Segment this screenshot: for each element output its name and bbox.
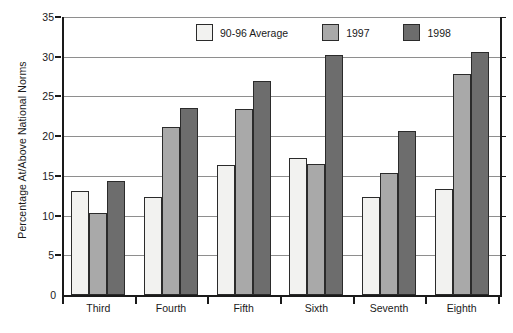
bar-seventh-0: [362, 197, 380, 295]
y-tick-mark-10: [55, 215, 61, 217]
x-tick-mark-3: [280, 297, 282, 304]
y-tick-label-20: 20: [28, 131, 54, 142]
y-tick-mark-right-5: [500, 255, 506, 256]
bar-sixth-0: [289, 158, 307, 295]
bar-eighth-0: [435, 189, 453, 295]
y-tick-label-0: 0: [36, 290, 56, 301]
legend-item-0: 90-96 Average: [196, 24, 288, 41]
bar-chart: Percentage At/Above National Norms 0 510…: [0, 0, 513, 333]
y-tick-mark-right-15: [500, 176, 506, 177]
bar-fifth-0: [217, 165, 235, 295]
y-tick-mark-5: [55, 254, 61, 256]
legend-label-0: 90-96 Average: [220, 27, 288, 39]
x-tick-mark-5: [425, 297, 427, 304]
bar-fourth-0: [144, 197, 162, 295]
x-axis-label-third: Third: [62, 303, 135, 314]
x-axis-label-eighth: Eighth: [425, 303, 498, 314]
x-tick-mark-2: [207, 297, 209, 304]
y-tick-label-5: 5: [28, 250, 54, 261]
y-tick-mark-20: [55, 135, 61, 137]
bar-group-seventh: [353, 17, 426, 295]
bar-seventh-1: [380, 173, 398, 295]
bar-third-2: [107, 181, 125, 295]
x-axis-label-fourth: Fourth: [135, 303, 208, 314]
bar-eighth-2: [471, 52, 489, 295]
bar-seventh-2: [398, 131, 416, 295]
legend-swatch-icon-0: [196, 24, 213, 41]
legend-swatch-icon-1: [322, 24, 339, 41]
bars-layer: [62, 17, 498, 295]
y-tick-mark-right-25: [500, 96, 506, 97]
legend-item-1: 1997: [322, 24, 369, 41]
x-axis-label-seventh: Seventh: [353, 303, 426, 314]
y-tick-mark-15: [55, 175, 61, 177]
bar-third-0: [71, 191, 89, 295]
bar-fourth-2: [180, 108, 198, 295]
bar-sixth-1: [307, 164, 325, 295]
x-axis-label-fifth: Fifth: [207, 303, 280, 314]
y-tick-label-25: 25: [28, 91, 54, 102]
y-tick-mark-35: [55, 16, 61, 18]
x-tick-mark-0: [62, 297, 64, 304]
x-tick-mark-1: [135, 297, 137, 304]
legend-swatch-icon-2: [403, 24, 420, 41]
y-tick-mark-right-10: [500, 216, 506, 217]
bar-group-eighth: [425, 17, 498, 295]
bar-group-fourth: [135, 17, 208, 295]
y-tick-label-35: 35: [28, 12, 54, 23]
x-tick-mark-4: [353, 297, 355, 304]
y-tick-mark-30: [55, 56, 61, 58]
y-tick-mark-right-35: [500, 17, 506, 18]
bar-eighth-1: [453, 74, 471, 295]
legend-label-1: 1997: [346, 27, 369, 39]
bar-third-1: [89, 213, 107, 295]
bar-fifth-1: [235, 109, 253, 295]
y-tick-mark-right-30: [500, 57, 506, 58]
bar-fourth-1: [162, 127, 180, 295]
y-tick-mark-25: [55, 95, 61, 97]
bar-group-sixth: [280, 17, 353, 295]
y-tick-label-10: 10: [28, 211, 54, 222]
x-axis-label-sixth: Sixth: [280, 303, 353, 314]
y-tick-label-15: 15: [28, 171, 54, 182]
bar-group-fifth: [207, 17, 280, 295]
legend-label-2: 1998: [427, 27, 450, 39]
bar-group-third: [62, 17, 135, 295]
chart-legend: 90-96 Average 1997 1998: [196, 24, 451, 41]
y-tick-label-30: 30: [28, 52, 54, 63]
x-tick-mark-6: [498, 297, 500, 304]
y-tick-mark-right-20: [500, 136, 506, 137]
bar-fifth-2: [253, 81, 271, 295]
legend-item-2: 1998: [403, 24, 450, 41]
bar-sixth-2: [325, 55, 343, 295]
